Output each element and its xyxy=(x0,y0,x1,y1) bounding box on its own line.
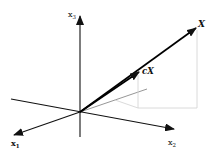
projection-of-x-on-plane xyxy=(80,89,147,112)
vector-diagram: x3 x2 x1 X cX xyxy=(0,0,214,158)
base-guide-line-2 xyxy=(115,100,138,108)
vector-x-label: X xyxy=(197,19,206,29)
x1-axis-label: x1 xyxy=(11,138,20,149)
vector-cx-label: cX xyxy=(142,66,154,76)
x2-axis-label: x2 xyxy=(168,138,176,148)
x1-axis xyxy=(14,112,80,135)
x3-axis-label: x3 xyxy=(68,10,77,20)
axes xyxy=(11,16,174,137)
vector-cx-arrow xyxy=(80,72,139,112)
